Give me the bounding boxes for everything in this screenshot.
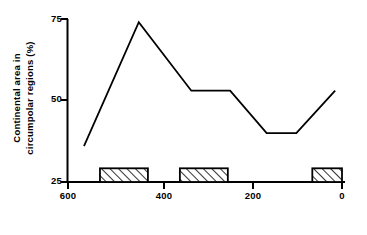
axis-spines [67,19,346,182]
glaciation-bar [100,168,148,182]
chart-figure: Continental area in circumpolar regions … [0,0,367,235]
x-axis-ticks [68,182,342,189]
data-series-line [84,22,335,146]
plot-area [0,0,367,235]
glaciation-bar [180,168,228,182]
glaciation-bar [312,168,342,182]
glaciation-bars [100,168,342,182]
